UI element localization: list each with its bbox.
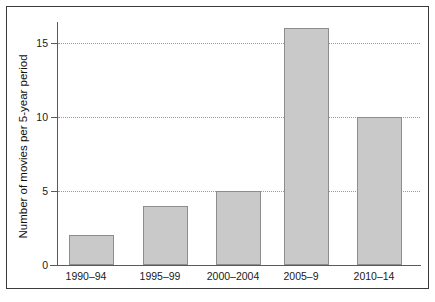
y-tick-label-0: 0 bbox=[22, 260, 48, 271]
x-tick-label-1995-99: 1995–99 bbox=[120, 271, 200, 282]
bar-chart-figure: Number of movies per 5-year period 0 5 1… bbox=[0, 0, 435, 302]
x-tick-label-2010-14: 2010–14 bbox=[334, 271, 414, 282]
plot-area bbox=[58, 28, 420, 265]
y-tick-label-10-wrap: 10 bbox=[22, 112, 48, 122]
bar-1995-99[interactable] bbox=[143, 206, 188, 265]
bar-2005-9[interactable] bbox=[284, 28, 329, 265]
x-tick-label-1990-94: 1990–94 bbox=[46, 271, 126, 282]
bar-2010-14[interactable] bbox=[357, 117, 402, 265]
y-tick-label-5: 5 bbox=[22, 186, 48, 197]
y-tick-label-10: 10 bbox=[22, 112, 48, 123]
y-tick-label-0-wrap: 0 bbox=[22, 260, 48, 270]
y-tick-label-15-wrap: 15 bbox=[22, 38, 48, 48]
y-tick-label-15: 15 bbox=[22, 38, 48, 49]
y-tick-mark-10 bbox=[51, 117, 57, 118]
y-tick-mark-0 bbox=[51, 265, 57, 266]
y-tick-mark-5 bbox=[51, 191, 57, 192]
x-tick-label-2005-9: 2005–9 bbox=[261, 271, 341, 282]
bar-1990-94[interactable] bbox=[69, 235, 114, 265]
x-axis-line bbox=[50, 265, 421, 266]
y-tick-label-5-wrap: 5 bbox=[22, 186, 48, 196]
y-axis-title: Number of movies per 5-year period bbox=[14, 28, 32, 265]
y-tick-mark-15 bbox=[51, 43, 57, 44]
bar-2000-2004[interactable] bbox=[216, 191, 261, 265]
